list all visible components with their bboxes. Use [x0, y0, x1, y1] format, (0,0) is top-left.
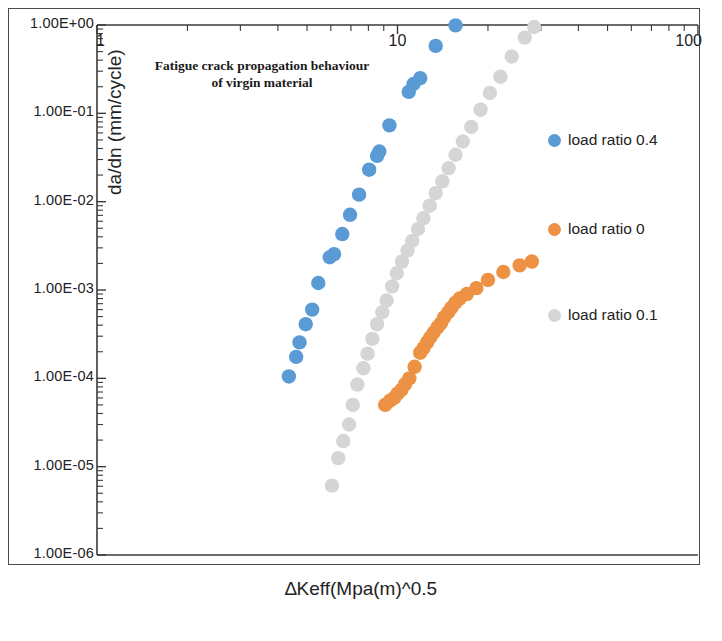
legend-item[interactable]: load ratio 0.4 — [548, 131, 658, 149]
data-point — [335, 227, 349, 241]
plot-area — [97, 25, 698, 555]
data-point — [336, 434, 350, 448]
y-tick-label: 1.00E-03 — [2, 280, 94, 296]
data-point — [473, 102, 487, 116]
data-point — [282, 369, 296, 383]
data-point — [372, 144, 386, 158]
data-point — [525, 254, 539, 268]
data-point — [469, 281, 483, 295]
y-tick-label: 1.00E-01 — [2, 103, 94, 119]
data-point — [360, 347, 374, 361]
chart-title: Fatigue crack propagation behaviour of v… — [112, 57, 412, 91]
data-point — [416, 211, 430, 225]
data-point — [441, 161, 455, 175]
legend-item[interactable]: load ratio 0 — [548, 220, 645, 238]
data-point — [512, 258, 526, 272]
data-point — [346, 398, 360, 412]
y-tick-label: 1.00E-02 — [2, 192, 94, 208]
data-point — [385, 279, 399, 293]
data-point — [379, 293, 393, 307]
data-point — [423, 199, 437, 213]
data-point — [435, 174, 449, 188]
x-tick-label: 1 — [96, 32, 105, 50]
y-axis-title: da/dn (mm/cycle) — [104, 49, 126, 195]
data-point — [362, 163, 376, 177]
data-point — [448, 148, 462, 162]
y-axis-tick-labels: 1.00E+001.00E-011.00E-021.00E-031.00E-04… — [0, 0, 94, 641]
data-point — [483, 86, 497, 100]
y-tick-label: 1.00E-04 — [2, 368, 94, 384]
data-point — [481, 273, 495, 287]
data-point — [493, 69, 507, 83]
legend-label: load ratio 0.4 — [568, 131, 658, 149]
x-tick-label: 10 — [389, 32, 407, 50]
x-axis-title: ∆Keff(Mpa(m)^0.5 — [0, 578, 722, 600]
data-point — [305, 302, 319, 316]
data-point — [496, 265, 510, 279]
data-point — [343, 208, 357, 222]
legend-item[interactable]: load ratio 0.1 — [548, 306, 658, 324]
data-point — [289, 350, 303, 364]
data-point — [299, 317, 313, 331]
data-point — [413, 71, 427, 85]
data-point — [327, 247, 341, 261]
data-point — [311, 276, 325, 290]
legend-marker-icon — [548, 223, 561, 236]
data-point — [464, 120, 478, 134]
data-point — [342, 417, 356, 431]
legend-marker-icon — [548, 309, 561, 322]
y-tick-label: 1.00E-06 — [2, 545, 94, 561]
x-tick-label: 100 — [675, 32, 702, 50]
legend-label: load ratio 0.1 — [568, 306, 658, 324]
data-point — [356, 361, 370, 375]
figure-container: 1.00E+001.00E-011.00E-021.00E-031.00E-04… — [0, 0, 722, 641]
data-point — [407, 360, 421, 374]
legend-marker-icon — [548, 134, 561, 147]
data-point — [382, 118, 396, 132]
data-point — [365, 332, 379, 346]
chart-title-line2: of virgin material — [112, 74, 412, 91]
legend-label: load ratio 0 — [568, 220, 645, 238]
data-point — [292, 335, 306, 349]
chart-title-line1: Fatigue crack propagation behaviour — [112, 57, 412, 74]
data-point — [456, 134, 470, 148]
data-point — [352, 187, 366, 201]
data-point — [331, 451, 345, 465]
y-tick-label: 1.00E-05 — [2, 457, 94, 473]
data-points-svg — [97, 25, 698, 555]
data-point — [350, 377, 364, 391]
data-point — [325, 478, 339, 492]
